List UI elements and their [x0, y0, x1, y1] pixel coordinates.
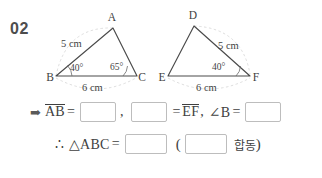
answer-line-2: ∴ △ABC = ( 합동 ): [55, 132, 262, 156]
worksheet-page: 02 A B C 5 cm 6 cm 40° 65°: [0, 0, 322, 178]
answer-blank-2[interactable]: [131, 102, 167, 122]
vertex-label-c: C: [138, 71, 146, 83]
side-label-ba: 5 cm: [61, 38, 82, 49]
answer-line-1: ➡ AB = , = EF , ∠B =: [30, 100, 284, 124]
vertex-label-e: E: [158, 71, 165, 83]
question-number: 02: [10, 20, 29, 38]
vertex-label-a: A: [108, 11, 117, 23]
triangle-abc-outline: [56, 28, 137, 76]
congruence-label: 합동: [234, 136, 256, 153]
angle-b-label: ∠B: [209, 104, 231, 121]
angle-label-f: 40°: [212, 62, 226, 72]
comma-separator-1: ,: [120, 104, 124, 120]
answer-blank-1[interactable]: [80, 102, 116, 122]
equals-sign-4: =: [112, 136, 120, 152]
side-label-bc: 6 cm: [82, 82, 103, 93]
segment-ef-label: EF: [182, 104, 199, 120]
arrow-right-icon: ➡: [30, 106, 41, 119]
equals-sign-1: =: [67, 104, 75, 120]
triangle-abc-label: △ABC: [69, 136, 110, 153]
answer-blank-3[interactable]: [245, 102, 281, 122]
side-label-ef: 6 cm: [196, 82, 217, 93]
equals-sign-3: =: [232, 104, 240, 120]
vertex-label-f: F: [253, 71, 259, 83]
answer-blank-5[interactable]: [185, 134, 227, 154]
comma-separator-2: ,: [200, 104, 204, 120]
vertex-label-b: B: [46, 71, 54, 83]
close-paren: ): [256, 136, 261, 153]
angle-arc-c: [123, 66, 128, 76]
open-paren: (: [176, 136, 181, 153]
side-label-df: 5 cm: [218, 40, 239, 51]
geometry-figure: A B C 5 cm 6 cm 40° 65° D E F 5 cm 6 cm …: [46, 8, 278, 94]
triangles-svg: A B C 5 cm 6 cm 40° 65° D E F 5 cm 6 cm …: [46, 8, 278, 94]
therefore-symbol: ∴: [55, 136, 64, 153]
vertex-label-d: D: [189, 9, 197, 21]
angle-label-c: 65°: [110, 62, 124, 72]
angle-label-b: 40°: [70, 63, 84, 73]
guide-arcs-right: [168, 26, 250, 89]
equals-sign-2: =: [172, 104, 180, 120]
answer-blank-4[interactable]: [125, 134, 167, 154]
segment-ab-label: AB: [45, 104, 65, 120]
triangle-def-outline: [168, 26, 250, 76]
